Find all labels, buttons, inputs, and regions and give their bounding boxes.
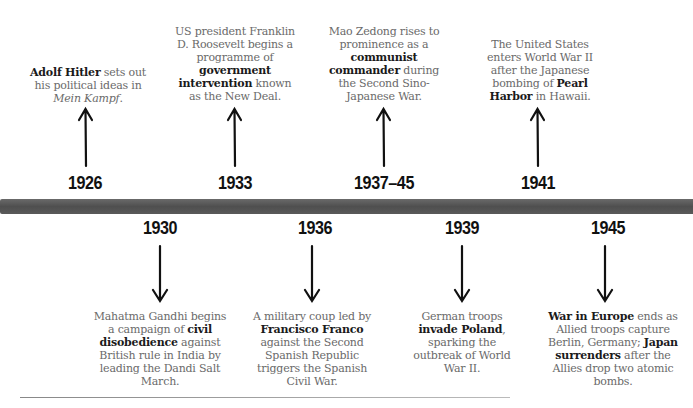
bold-invade-poland: invade Poland xyxy=(418,323,502,336)
event-1937-45-text: Mao Zedong rises to prominence as a comm… xyxy=(325,25,443,103)
year-1937-45: 1937–45 xyxy=(350,172,418,194)
arrow-down-icon xyxy=(302,244,322,304)
year-1939: 1939 xyxy=(437,217,488,239)
bold-war-in-europe: War in Europe xyxy=(548,310,634,323)
arrow-down-icon xyxy=(150,244,170,304)
event-1933-text: US president Franklin D. Roosevelt begin… xyxy=(175,25,295,103)
arrow-up-icon xyxy=(528,106,548,168)
bold-government-intervention: government intervention xyxy=(179,64,271,90)
year-1926: 1926 xyxy=(60,172,111,194)
bold-pearl-harbor: Pearl Harbor xyxy=(489,77,587,103)
bold-japan-surrenders: Japan surrenders xyxy=(555,336,678,362)
event-1945-text: War in Europe ends as Allied troops capt… xyxy=(548,310,678,388)
event-1941-text: The United States enters World War II af… xyxy=(485,38,595,103)
year-1933: 1933 xyxy=(210,172,261,194)
event-1930-text: Mahatma Gandhi begins a campaign of civi… xyxy=(90,310,230,388)
event-1939-text: German troops invade Poland, sparking th… xyxy=(412,310,512,375)
year-1930: 1930 xyxy=(135,217,186,239)
bold-communist-commander: communist commander xyxy=(329,51,418,77)
event-1936-text: A military coup led by Francisco Franco … xyxy=(248,310,376,388)
bold-civil-disobedience: civil disobedience xyxy=(100,323,212,349)
bold-francisco-franco: Francisco Franco xyxy=(261,323,364,336)
arrow-down-icon xyxy=(452,244,472,304)
italic-mein-kampf: Mein Kampf xyxy=(53,92,119,105)
bottom-rule xyxy=(20,397,510,398)
year-1945: 1945 xyxy=(583,217,634,239)
year-1941: 1941 xyxy=(513,172,564,194)
arrow-up-icon xyxy=(225,106,245,168)
event-1926-text: Adolf Hitler sets out his political idea… xyxy=(28,66,148,105)
arrow-down-icon xyxy=(595,244,615,304)
arrow-up-icon xyxy=(374,106,394,168)
year-1936: 1936 xyxy=(290,217,341,239)
arrow-up-icon xyxy=(76,106,96,168)
bold-adolf-hitler: Adolf Hitler xyxy=(30,66,101,79)
timeline-bar xyxy=(0,199,693,214)
